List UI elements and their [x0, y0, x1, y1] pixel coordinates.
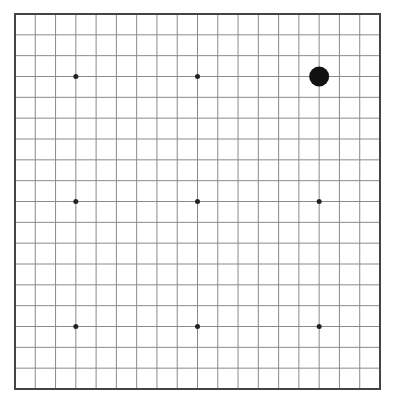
star-point-icon [195, 199, 200, 204]
star-point-icon [195, 74, 200, 79]
star-point-icon [73, 74, 78, 79]
black-stone[interactable] [309, 67, 329, 87]
star-point-icon [195, 324, 200, 329]
stones-layer [309, 67, 329, 87]
star-point-icon [317, 324, 322, 329]
star-point-icon [317, 199, 322, 204]
go-board[interactable] [0, 0, 395, 407]
star-point-icon [73, 199, 78, 204]
star-point-icon [73, 324, 78, 329]
